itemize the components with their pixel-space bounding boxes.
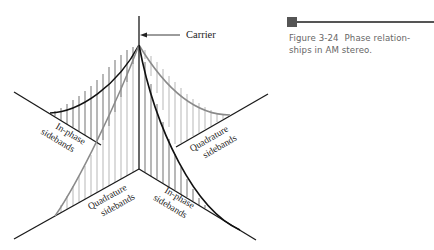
caption-marker-square [287, 17, 297, 27]
label-lower-left-quadrature: Quadrature sidebands [86, 181, 137, 222]
caption-line-2: ships in AM stereo. [289, 44, 434, 56]
figure-number: Figure 3-24 [289, 33, 339, 43]
quadrature-curve-upper-right [139, 45, 230, 115]
caption-text-1: Phase relation- [345, 33, 411, 43]
caption-rule [297, 21, 434, 23]
label-upper-right-quadrature: Quadrature sidebands [188, 122, 239, 164]
caption-line-1: Figure 3-24Phase relation- [289, 32, 434, 44]
label-lower-right-in-phase: In-phase sidebands [152, 182, 197, 221]
carrier-label: Carrier [186, 29, 216, 40]
figure-caption: Figure 3-24Phase relation- ships in AM s… [289, 32, 434, 56]
carrier-arrow [140, 33, 180, 38]
am-stereo-phase-diagram: Carrier In-phase sidebands Quadrature si… [0, 0, 280, 250]
